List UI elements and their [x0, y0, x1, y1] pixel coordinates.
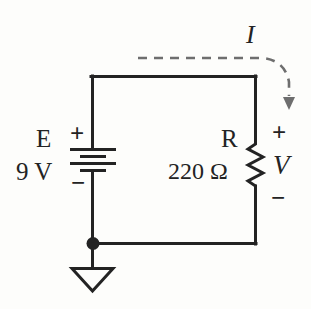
source-polarity-plus: + — [70, 121, 84, 146]
circuit-schematic — [0, 0, 311, 309]
resistor-value-label: 220 Ω — [168, 159, 228, 183]
source-value-label: 9 V — [16, 159, 52, 184]
resistor-polarity-plus: + — [272, 120, 286, 145]
resistor-polarity-minus: − — [271, 185, 285, 210]
ground-symbol — [72, 244, 113, 291]
source-name-label: E — [36, 126, 51, 151]
battery-symbol — [70, 150, 116, 171]
circuit-diagram-canvas: E 9 V + − R 220 Ω + V − I — [0, 0, 311, 309]
resistor-voltage-label: V — [273, 152, 290, 179]
ground-triangle — [72, 269, 113, 292]
resistor-symbol — [248, 140, 263, 188]
resistor-name-label: R — [221, 126, 238, 151]
source-polarity-minus: − — [71, 170, 85, 195]
current-arrow-head — [283, 97, 295, 110]
current-arrow — [138, 58, 295, 110]
current-label: I — [246, 22, 255, 48]
